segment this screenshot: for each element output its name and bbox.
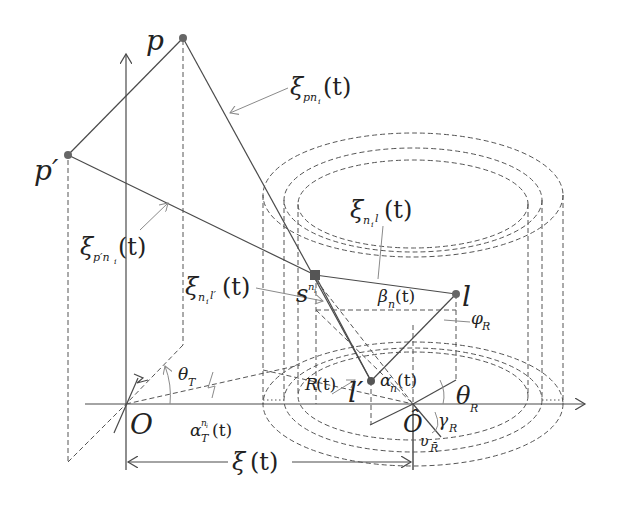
label-xi-nlp: ξ n i l′ (t) bbox=[185, 273, 250, 306]
label-xi-t: ξ (t) bbox=[232, 448, 278, 476]
label-r-t: R (t) bbox=[304, 374, 336, 394]
svg-text:υ: υ bbox=[420, 433, 429, 449]
label-alpha-n: α n (t) bbox=[380, 370, 417, 395]
svg-text:s: s bbox=[296, 280, 308, 308]
svg-text:β: β bbox=[377, 286, 388, 306]
point-p-prime bbox=[64, 151, 72, 159]
svg-text:(t): (t) bbox=[250, 448, 278, 476]
svg-text:R: R bbox=[481, 320, 490, 333]
svg-text:i: i bbox=[314, 287, 316, 295]
svg-text:θ: θ bbox=[456, 382, 471, 410]
svg-text:pn: pn bbox=[303, 91, 317, 104]
label-xi-nl: ξ n i l (t) bbox=[350, 196, 412, 229]
label-phi-r: φ R bbox=[471, 308, 490, 333]
label-origin: O bbox=[130, 408, 153, 441]
label-alpha-t: α T n i (t) bbox=[190, 418, 232, 445]
svg-text:i: i bbox=[206, 422, 208, 429]
svg-text:l: l bbox=[375, 212, 379, 225]
svg-text:i: i bbox=[114, 257, 117, 266]
point-p bbox=[179, 34, 187, 42]
svg-text:(t): (t) bbox=[323, 73, 351, 101]
svg-text:i: i bbox=[371, 220, 374, 229]
svg-text:n: n bbox=[363, 214, 370, 227]
label-beta-n: β n (t) bbox=[377, 286, 415, 311]
label-theta-t: θ T bbox=[178, 364, 197, 389]
svg-text:p′n: p′n bbox=[93, 251, 110, 264]
svg-text:l′: l′ bbox=[210, 289, 217, 302]
bistatic-geometry-diagram: p p′ ξ pn i (t) ξ p′n i (t) ξ n i l (t) … bbox=[0, 0, 620, 511]
label-p: p bbox=[146, 24, 164, 57]
svg-text:(t): (t) bbox=[384, 196, 412, 224]
svg-text:(t): (t) bbox=[395, 286, 415, 306]
svg-text:R̄: R̄ bbox=[429, 442, 438, 455]
label-xi-pn: ξ pn i (t) bbox=[290, 73, 351, 106]
svg-text:(t): (t) bbox=[397, 370, 417, 390]
point-l-prime bbox=[367, 377, 375, 385]
svg-text:(t): (t) bbox=[212, 420, 232, 440]
svg-text:(t): (t) bbox=[118, 233, 146, 261]
svg-text:ξ: ξ bbox=[232, 448, 247, 476]
label-p-prime: p′ bbox=[34, 154, 59, 187]
svg-text:R: R bbox=[448, 422, 457, 435]
label-theta-r: θ R bbox=[456, 382, 478, 415]
svg-text:θ: θ bbox=[178, 364, 188, 384]
svg-text:γ: γ bbox=[438, 410, 449, 430]
point-l bbox=[452, 290, 460, 298]
label-xi-ppn: ξ p′n i (t) bbox=[80, 233, 146, 266]
svg-text:(t): (t) bbox=[316, 374, 336, 394]
svg-text:(t): (t) bbox=[222, 273, 250, 301]
svg-text:T: T bbox=[201, 432, 210, 445]
label-l-prime: l′ bbox=[348, 376, 364, 409]
svg-text:i: i bbox=[318, 97, 321, 106]
label-gamma-r: γ R bbox=[438, 410, 457, 435]
svg-text:n: n bbox=[198, 291, 205, 304]
svg-text:T: T bbox=[188, 376, 197, 389]
label-l: l bbox=[462, 280, 471, 313]
point-s bbox=[310, 270, 320, 280]
svg-text:i: i bbox=[206, 297, 209, 306]
label-s: s n i bbox=[296, 280, 316, 308]
svg-text:R: R bbox=[469, 402, 478, 415]
